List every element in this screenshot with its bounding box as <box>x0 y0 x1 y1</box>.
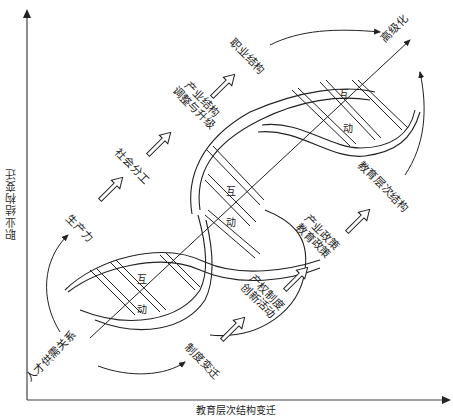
upper-chain-arrows <box>96 70 239 204</box>
x-axis <box>27 396 451 404</box>
helix-1-top-label: 互 <box>137 273 147 286</box>
x-axis-label: 教育层次结构变迁 <box>196 404 276 417</box>
helix-3-top-label: 互 <box>339 88 349 101</box>
helix-3-bottom-label: 动 <box>343 122 353 135</box>
helix-1-bottom-label: 动 <box>137 303 147 316</box>
y-axis-label: 职业结构变迁 <box>4 168 20 240</box>
helix-2-top-label: 互 <box>226 185 236 198</box>
y-axis <box>23 9 31 400</box>
helix-2-bottom-label: 动 <box>226 216 236 229</box>
